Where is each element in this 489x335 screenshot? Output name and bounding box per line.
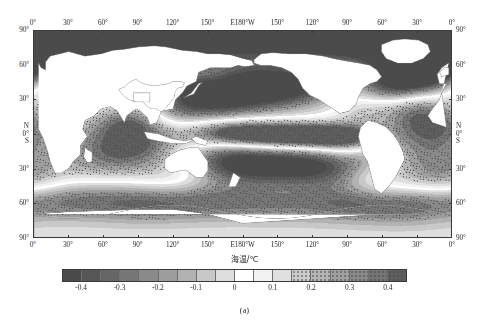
- colorbar-stipple-12: [292, 270, 310, 281]
- x-tick-label-bottom-8: 120°: [306, 241, 319, 249]
- x-tickmark-bottom-6: [243, 235, 244, 238]
- colorbar-swatch-10: [254, 270, 273, 281]
- x-tickmark-bottom-9: [347, 235, 348, 238]
- y-tickmark-right-5: [449, 203, 452, 204]
- colorbar-swatch-0: [63, 270, 82, 281]
- x-tick-label-top-0: 0°: [30, 19, 36, 27]
- y-tick-label-left-5: 60°: [7, 199, 29, 207]
- x-tick-label-top-12: 0°: [449, 19, 455, 27]
- colorbar-swatch-17: [388, 270, 406, 281]
- x-tick-label-bottom-9: 90°: [342, 241, 352, 249]
- x-tick-label-top-10: 60°: [377, 19, 387, 27]
- x-tickmark-bottom-7: [277, 235, 278, 238]
- x-tickmark-bottom-3: [138, 235, 139, 238]
- colorbar-swatch-2: [101, 270, 120, 281]
- colorbar-swatch-4: [139, 270, 158, 281]
- colorbar-tick-label-6: 0.2: [307, 283, 316, 292]
- colorbar-swatch-6: [178, 270, 197, 281]
- x-tick-label-bottom-5: 150°: [201, 241, 214, 249]
- colorbar-stipple-16: [369, 270, 387, 281]
- y-tick-label-right-equator: N0°S: [456, 123, 478, 146]
- x-tickmark-bottom-4: [173, 235, 174, 238]
- x-tick-label-top-7: 150°: [271, 19, 284, 27]
- figure-panel: 0°0°30°30°60°60°90°90°120°120°150°150°E1…: [0, 0, 489, 335]
- x-tick-label-bottom-11: 30°: [412, 241, 422, 249]
- y-tick-label-left-1: 60°: [7, 61, 29, 69]
- y-tickmark-left-2: [33, 99, 36, 100]
- x-tickmark-bottom-5: [208, 235, 209, 238]
- y-tick-label-right-5: 60°: [456, 199, 478, 207]
- y-tickmark-right-1: [449, 65, 452, 66]
- x-tick-label-top-5: 150°: [201, 19, 214, 27]
- y-tick-label-left-equator: N0°S: [7, 123, 29, 146]
- x-tick-label-bottom-10: 60°: [377, 241, 387, 249]
- y-tick-label-right-6: 90°: [456, 234, 478, 242]
- x-tick-label-bottom-6: E180°W: [230, 241, 254, 249]
- y-equator-part-r-2: S: [456, 138, 478, 146]
- y-tickmark-left-5: [33, 203, 36, 204]
- colorbar-swatch-12: [292, 270, 311, 281]
- y-tickmark-left-4: [33, 169, 36, 170]
- y-tickmark-right-2: [449, 99, 452, 100]
- x-tickmark-bottom-1: [68, 235, 69, 238]
- colorbar-swatch-14: [331, 270, 350, 281]
- y-tickmark-right-4: [449, 169, 452, 170]
- x-tick-label-bottom-4: 120°: [166, 241, 179, 249]
- x-tick-label-top-1: 30°: [63, 19, 73, 27]
- y-tick-label-left-2: 30°: [7, 95, 29, 103]
- x-tick-label-bottom-0: 0°: [30, 241, 36, 249]
- y-tick-label-right-0: 90°: [456, 26, 478, 34]
- colorbar-tick-label-2: -0.2: [152, 283, 164, 292]
- y-tick-label-left-6: 90°: [7, 234, 29, 242]
- x-tickmark-bottom-10: [382, 235, 383, 238]
- colorbar-tick-label-4: 0: [233, 283, 237, 292]
- y-tick-label-left-0: 90°: [7, 26, 29, 34]
- colorbar-tick-label-8: 0.4: [383, 283, 392, 292]
- colorbar-swatch-5: [159, 270, 178, 281]
- figure-caption: (a): [0, 306, 489, 315]
- y-tickmark-left-3: [33, 134, 36, 135]
- colorbar-swatch-11: [273, 270, 292, 281]
- x-tickmark-top-1: [68, 30, 69, 33]
- x-tickmark-top-5: [208, 30, 209, 33]
- x-tick-label-bottom-3: 90°: [133, 241, 143, 249]
- x-tickmark-top-2: [103, 30, 104, 33]
- x-tick-label-bottom-1: 30°: [63, 241, 73, 249]
- x-tickmark-top-8: [312, 30, 313, 33]
- colorbar-stipple-14: [331, 270, 349, 281]
- colorbar-stipple-15: [350, 270, 368, 281]
- colorbar-swatch-3: [120, 270, 139, 281]
- x-tickmark-bottom-2: [103, 235, 104, 238]
- x-tickmark-bottom-8: [312, 235, 313, 238]
- sst-anomaly-heatmap: [34, 31, 451, 237]
- x-tick-label-top-9: 90°: [342, 19, 352, 27]
- map-plot-area: [33, 30, 452, 238]
- x-tick-label-bottom-2: 60°: [98, 241, 108, 249]
- y-tick-label-right-1: 60°: [456, 61, 478, 69]
- y-tick-label-right-4: 30°: [456, 165, 478, 173]
- colorbar-swatch-16: [369, 270, 388, 281]
- colorbar: [62, 269, 407, 282]
- y-tick-label-right-2: 30°: [456, 95, 478, 103]
- colorbar-tick-label-7: 0.3: [345, 283, 354, 292]
- x-tickmark-top-4: [173, 30, 174, 33]
- x-tick-label-bottom-7: 150°: [271, 241, 284, 249]
- colorbar-stipple-13: [311, 270, 329, 281]
- colorbar-stipple-17: [388, 270, 406, 281]
- x-tick-label-top-11: 30°: [412, 19, 422, 27]
- y-equator-part-2: S: [7, 138, 29, 146]
- colorbar-swatch-1: [82, 270, 101, 281]
- colorbar-swatch-7: [197, 270, 216, 281]
- x-tick-label-top-4: 120°: [166, 19, 179, 27]
- colorbar-tick-label-0: -0.4: [75, 283, 87, 292]
- y-tickmark-right-3: [449, 134, 452, 135]
- x-tick-label-top-8: 120°: [306, 19, 319, 27]
- x-tick-label-top-6: E180°W: [230, 19, 254, 27]
- colorbar-swatch-9: [235, 270, 254, 281]
- colorbar-tick-label-5: 0.1: [268, 283, 277, 292]
- x-tickmark-top-3: [138, 30, 139, 33]
- y-tick-label-left-4: 30°: [7, 165, 29, 173]
- x-tick-label-top-2: 60°: [98, 19, 108, 27]
- x-tick-label-bottom-12: 0°: [449, 241, 455, 249]
- colorbar-swatch-8: [216, 270, 235, 281]
